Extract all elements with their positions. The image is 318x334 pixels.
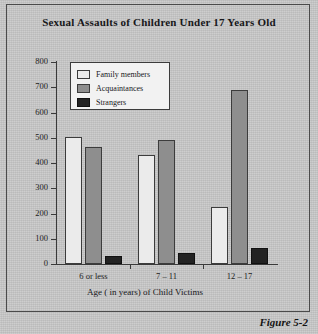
y-axis-tick [51,214,57,215]
figure-container: Sexual Assaults of Children Under 17 Yea… [0,0,318,334]
bar-strangers-2 [178,253,195,264]
legend-label-family-members: Family members [96,70,150,79]
x-axis-category-label: 6 or less [57,271,130,281]
bar-acquaintances-1 [85,147,102,264]
y-axis-tick-label: 300 [0,182,48,192]
y-axis-tick [51,188,57,189]
bar-family-members-3 [211,207,228,264]
x-axis-tick [130,265,131,269]
legend-item-acquaintances: Acquaintances [77,81,169,95]
x-axis-category-label: 7 – 11 [130,271,203,281]
chart-legend: Family members Acquaintances Strangers [70,62,170,110]
y-axis-tick-label: 200 [0,208,48,218]
x-axis-line [56,264,278,265]
y-axis-tick [51,138,57,139]
legend-swatch-strangers [77,98,90,107]
y-axis-tick-label: 0 [0,258,48,268]
legend-swatch-acquaintances [77,84,90,93]
bar-strangers-1 [105,256,122,264]
bar-acquaintances-2 [158,140,175,264]
y-axis-tick-labels: 0100200300400500600700800 [0,0,50,334]
x-axis-tick [203,265,204,269]
y-axis-tick-label: 500 [0,132,48,142]
legend-item-family-members: Family members [77,67,169,81]
legend-item-strangers: Strangers [77,95,169,109]
y-axis-tick [51,163,57,164]
y-axis-tick [51,87,57,88]
legend-label-acquaintances: Acquaintances [96,84,143,93]
bar-family-members-1 [65,137,82,265]
legend-label-strangers: Strangers [96,98,126,107]
y-axis-tick [51,264,57,265]
y-axis-tick [51,113,57,114]
bar-strangers-3 [251,248,268,264]
y-axis-tick [51,62,57,63]
y-axis-tick-label: 400 [0,157,48,167]
x-axis-title: Age ( in years) of Child Victims [0,287,290,297]
y-axis-tick-label: 100 [0,233,48,243]
y-axis-tick-label: 600 [0,107,48,117]
y-axis-tick [51,239,57,240]
x-axis-category-label: 12 – 17 [203,271,276,281]
legend-swatch-family-members [77,70,90,79]
bar-acquaintances-3 [231,90,248,264]
y-axis-tick-label: 700 [0,81,48,91]
figure-caption: Figure 5-2 [259,316,308,328]
y-axis-tick-label: 800 [0,56,48,66]
bar-family-members-2 [138,155,155,264]
